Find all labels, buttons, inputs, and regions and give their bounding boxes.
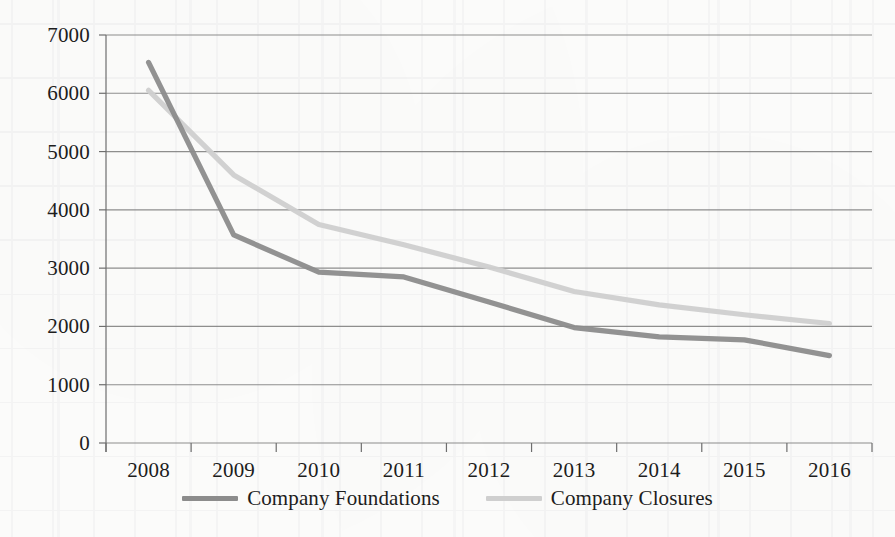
- legend-swatch-icon: [182, 496, 238, 501]
- y-tick-label-1000: 1000: [12, 372, 90, 397]
- line-chart: 70006000500040003000200010000 2008200920…: [0, 0, 895, 537]
- legend-swatch-icon: [486, 496, 542, 501]
- x-tick-label-2016: 2016: [808, 458, 851, 483]
- x-tick-label-2014: 2014: [638, 458, 681, 483]
- x-tick-label-2015: 2015: [723, 458, 766, 483]
- y-tick-label-2000: 2000: [12, 314, 90, 339]
- y-tick-label-4000: 4000: [12, 197, 90, 222]
- y-tick-label-3000: 3000: [12, 256, 90, 281]
- legend-label: Company Closures: [551, 486, 713, 511]
- x-tick-label-2011: 2011: [383, 458, 425, 483]
- plot-area: [0, 0, 895, 537]
- y-tick-label-5000: 5000: [12, 139, 90, 164]
- x-tick-label-2012: 2012: [468, 458, 511, 483]
- x-tick-label-2008: 2008: [127, 458, 170, 483]
- series-line-company-closures: [149, 90, 830, 323]
- x-tick-label-2009: 2009: [212, 458, 255, 483]
- legend-item: Company Closures: [486, 486, 713, 511]
- y-tick-label-0: 0: [12, 431, 90, 456]
- x-tick-label-2013: 2013: [553, 458, 596, 483]
- x-tick-label-2010: 2010: [297, 458, 340, 483]
- y-tick-label-6000: 6000: [12, 81, 90, 106]
- legend-item: Company Foundations: [182, 486, 440, 511]
- chart-legend: Company FoundationsCompany Closures: [0, 486, 895, 511]
- legend-label: Company Foundations: [247, 486, 440, 511]
- y-tick-label-7000: 7000: [12, 23, 90, 48]
